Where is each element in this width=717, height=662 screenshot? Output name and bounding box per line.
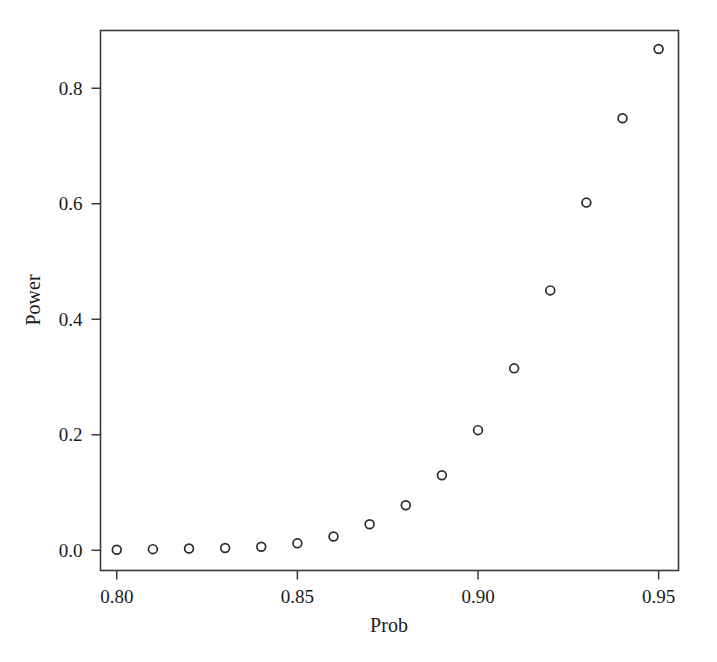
data-point-marker	[618, 114, 627, 123]
scatter-marker-group	[112, 45, 663, 555]
y-axis-tick-label: 0.0	[59, 540, 83, 561]
y-axis-tick-label: 0.4	[59, 309, 83, 330]
y-axis-tick-labels: 0.00.20.40.60.8	[59, 78, 83, 561]
data-point-marker	[329, 532, 338, 541]
data-point-marker	[185, 544, 194, 553]
plot-frame	[101, 31, 679, 571]
y-axis-tick-label: 0.8	[59, 78, 83, 99]
data-point-marker	[401, 501, 410, 510]
x-axis-tick-labels: 0.800.850.900.95	[100, 586, 675, 607]
x-axis-tick-label: 0.85	[281, 586, 314, 607]
y-axis-tick-group	[92, 88, 101, 550]
data-point-marker	[546, 286, 555, 295]
x-axis-tick-label: 0.95	[642, 586, 675, 607]
plot-canvas: 0.00.20.40.60.8 0.800.850.900.95 Prob Po…	[0, 0, 717, 662]
data-point-marker	[112, 545, 121, 554]
y-axis-tick-label: 0.6	[59, 193, 83, 214]
data-point-marker	[510, 364, 519, 373]
x-axis-tick-group	[117, 571, 659, 580]
scatter-plot-figure: 0.00.20.40.60.8 0.800.850.900.95 Prob Po…	[0, 0, 717, 662]
x-axis-tick-label: 0.90	[461, 586, 494, 607]
x-axis-tick-label: 0.80	[100, 586, 133, 607]
data-point-marker	[221, 544, 230, 553]
data-point-marker	[654, 45, 663, 54]
data-point-marker	[437, 471, 446, 480]
y-axis-title: Power	[22, 274, 44, 325]
data-point-marker	[582, 198, 591, 207]
y-axis-tick-label: 0.2	[59, 424, 83, 445]
x-axis-title: Prob	[370, 614, 408, 636]
data-point-marker	[293, 539, 302, 548]
data-point-marker	[148, 545, 157, 554]
data-point-marker	[474, 426, 483, 435]
data-point-marker	[365, 520, 374, 529]
data-point-marker	[257, 542, 266, 551]
